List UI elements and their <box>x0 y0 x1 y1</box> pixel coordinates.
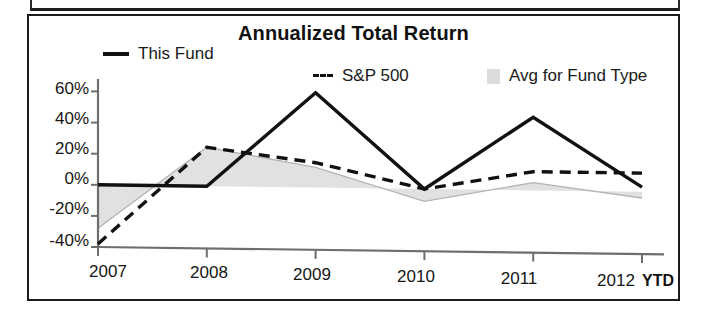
page-box-top-edge <box>30 0 680 11</box>
x-axis-line <box>98 247 664 254</box>
avg-for-fund-type-area <box>98 147 642 228</box>
avg-for-fund-type-fill <box>98 147 642 228</box>
chart-svg <box>29 16 680 301</box>
chart-plot-area <box>29 16 680 301</box>
sp500-path <box>98 147 642 244</box>
sp500-dashed-line <box>98 147 642 244</box>
chart-figure-frame: Annualized Total Return This Fund S&P 50… <box>27 14 680 301</box>
